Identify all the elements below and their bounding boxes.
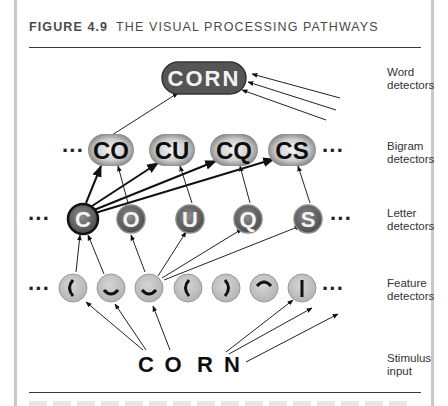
svg-text:C: C (75, 207, 91, 232)
svg-text:Q: Q (239, 207, 256, 232)
svg-text:CORN: CORN (168, 66, 241, 91)
caption-text-cropped (29, 401, 409, 406)
bigram-detector-cu: CU (149, 134, 195, 166)
visual-processing-diagram: CORN CO CU CQ CS ··· ··· ··· C O (0, 0, 448, 406)
layer-label-word: Word detectors (387, 66, 434, 92)
svg-text:CQ: CQ (216, 137, 252, 164)
feature-to-letter-connections (76, 226, 300, 280)
letter-ellipsis-right: ··· (330, 206, 352, 231)
feature-detector-left-curve-icon (174, 274, 202, 302)
layer-label-bigram: Bigram detectors (387, 140, 434, 166)
letter-detector-u: U (176, 205, 204, 233)
feature-ellipsis-right: ··· (322, 276, 344, 301)
word-detector-corn: CORN (162, 62, 246, 94)
stimulus-letter-n: N (224, 352, 240, 377)
feature-detector-top-curve-icon (250, 274, 278, 302)
stimulus-letter-r: R (197, 352, 213, 377)
bigram-detector-cs: CS (268, 134, 316, 166)
letter-detector-c: C (68, 204, 98, 234)
svg-text:O: O (122, 207, 139, 232)
letter-ellipsis-left: ··· (28, 206, 50, 231)
bigram-ellipsis-right: ··· (322, 138, 344, 163)
layer-label-stimulus: Stimulus input (387, 352, 431, 378)
stimulus-letter-o: O (164, 352, 181, 377)
bigram-detector-co: CO (88, 134, 134, 166)
svg-text:CU: CU (155, 137, 190, 164)
stimulus-letter-c: C (138, 352, 154, 377)
letter-detector-s: S (294, 205, 322, 233)
letter-detector-q: Q (234, 205, 262, 233)
svg-text:S: S (301, 207, 316, 232)
feature-detector-left-curve-icon (59, 274, 87, 302)
layer-label-letter: Letter detectors (387, 207, 434, 233)
bigram-detectors: CO CU CQ CS ··· ··· (62, 134, 344, 166)
svg-text:CS: CS (275, 137, 308, 164)
letter-detectors: ··· C O U Q S ··· (28, 204, 352, 234)
feature-detector-right-curve-icon (212, 274, 240, 302)
bigram-ellipsis-left: ··· (62, 138, 84, 163)
bigram-detector-cq: CQ (210, 134, 258, 166)
feature-ellipsis-left: ··· (28, 276, 50, 301)
svg-text:CO: CO (93, 137, 129, 164)
caption-divider (29, 392, 421, 393)
svg-text:U: U (182, 207, 198, 232)
stimulus-input: C O R N (138, 352, 240, 377)
layer-label-feature: Feature detectors (387, 277, 434, 303)
feature-detector-bottom-curve-icon (135, 274, 163, 302)
feature-detector-bottom-curve-icon (97, 274, 125, 302)
feature-detector-vertical-line-icon (288, 274, 316, 302)
feature-detectors: ··· ··· (28, 274, 344, 302)
letter-detector-o: O (117, 205, 145, 233)
